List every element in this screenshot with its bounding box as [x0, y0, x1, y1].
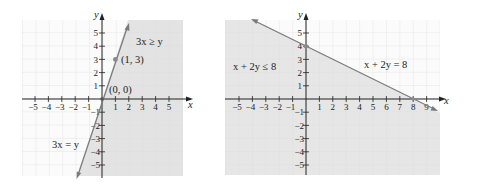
y-tick-label: 5 — [94, 28, 99, 38]
x-tick-label: −5 — [28, 102, 38, 112]
y-axis-arrow-icon — [304, 13, 309, 20]
point-origin — [100, 97, 104, 101]
x-tick-label: −2 — [68, 102, 78, 112]
x-axis-label: x — [443, 95, 449, 106]
y-tick-label: 1 — [298, 81, 303, 91]
graph-right: −5 −4 −3 −2 −1 1 2 3 4 5 6 7 8 9 1 2 3 4… — [220, 0, 477, 185]
x-tick-label: 5 — [371, 102, 376, 112]
y-tick-label: 4 — [94, 41, 99, 51]
x-axis-label: x — [187, 99, 193, 110]
y-tick-label: 3 — [94, 55, 99, 65]
point-y-intercept — [304, 44, 308, 48]
point-x-intercept — [411, 97, 415, 101]
equation-label: 3x = y — [52, 139, 80, 150]
x-tick-label: 4 — [357, 102, 362, 112]
point-label-origin: (0, 0) — [109, 84, 132, 96]
y-tick-label: −1 — [294, 107, 304, 117]
x-tick-label: 3 — [140, 102, 145, 112]
x-tick-label: 1 — [113, 102, 118, 112]
x-tick-label: −3 — [55, 102, 65, 112]
y-axis-label: y — [297, 9, 303, 20]
y-tick-label: 2 — [94, 68, 99, 78]
x-tick-label: 5 — [167, 102, 172, 112]
x-tick-label: 8 — [411, 102, 416, 112]
x-tick-label: 7 — [398, 102, 403, 112]
y-tick-label: 2 — [298, 68, 303, 78]
graph-left: −5 −4 −3 −2 −1 1 2 3 4 5 1 2 3 4 5 −1 −2… — [0, 0, 240, 185]
x-tick-label: 2 — [331, 102, 336, 112]
x-tick-label: 3 — [344, 102, 349, 112]
y-tick-label: −4 — [294, 147, 304, 157]
y-tick-label: −4 — [90, 147, 100, 157]
point-label-1-3: (1, 3) — [121, 54, 144, 66]
inequality-label: x + 2y ≤ 8 — [233, 61, 276, 72]
y-tick-label: 1 — [94, 81, 99, 91]
equation-label: x + 2y = 8 — [364, 59, 407, 70]
y-tick-label: −5 — [90, 160, 100, 170]
x-tick-label: −3 — [259, 102, 269, 112]
y-tick-label: −2 — [294, 121, 304, 131]
y-tick-label: −5 — [294, 160, 304, 170]
point-1-3 — [113, 57, 118, 62]
x-tick-label: −4 — [42, 102, 52, 112]
inequality-label: 3x ≥ y — [136, 36, 164, 47]
x-tick-label: 6 — [384, 102, 389, 112]
y-axis-label: y — [93, 9, 99, 20]
y-axis-arrow-icon — [100, 13, 105, 20]
y-tick-label: −3 — [90, 134, 100, 144]
x-tick-label: 2 — [127, 102, 132, 112]
x-tick-label: 1 — [317, 102, 322, 112]
x-tick-label: 4 — [153, 102, 158, 112]
x-tick-label: −5 — [232, 102, 242, 112]
y-tick-label: 3 — [298, 55, 303, 65]
y-tick-label: −3 — [294, 134, 304, 144]
y-tick-label: 5 — [298, 28, 303, 38]
x-tick-label: −2 — [272, 102, 282, 112]
x-tick-label: −4 — [246, 102, 256, 112]
